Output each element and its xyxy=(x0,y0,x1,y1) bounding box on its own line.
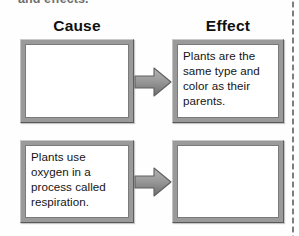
cause-text-row-2: Plants use oxygen in a process called re… xyxy=(31,149,124,209)
instruction-line-clipped: and effects. xyxy=(18,0,168,5)
column-heading-effect: Effect xyxy=(172,17,284,35)
cause-box-row-1[interactable] xyxy=(20,39,134,123)
effect-box-row-1-inner[interactable]: Plants are the same type and color as th… xyxy=(177,44,279,118)
instruction-text: and effects. xyxy=(18,0,168,5)
cause-box-row-2[interactable]: Plants use oxygen in a process called re… xyxy=(20,140,134,223)
right-block-arrow-icon xyxy=(134,166,172,198)
cause-box-row-1-inner[interactable] xyxy=(25,44,129,118)
dotted-cut-line xyxy=(291,0,295,236)
effect-box-row-1[interactable]: Plants are the same type and color as th… xyxy=(172,39,284,123)
cause-box-row-2-inner[interactable]: Plants use oxygen in a process called re… xyxy=(25,145,129,218)
worksheet-page: and effects. Cause Effect Plants are the… xyxy=(0,0,299,236)
effect-box-row-2[interactable] xyxy=(172,140,284,223)
column-heading-cause: Cause xyxy=(20,17,134,35)
effect-text-row-1: Plants are the same type and color as th… xyxy=(183,48,274,108)
effect-box-row-2-inner[interactable] xyxy=(177,145,279,218)
right-block-arrow-icon xyxy=(134,66,172,98)
